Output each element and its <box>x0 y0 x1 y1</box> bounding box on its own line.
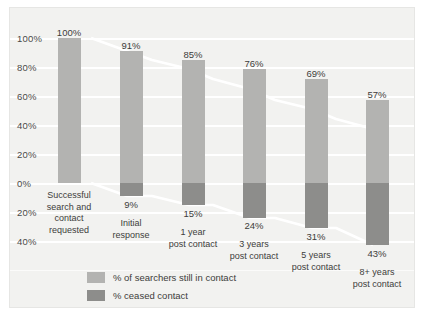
bar-value-down-3: 15% <box>170 208 216 219</box>
bar-up-5 <box>305 79 328 183</box>
category-line-5b: post contact <box>285 262 347 274</box>
category-line-2a: Initial <box>100 218 162 230</box>
category-label-1: Successful search and contact requested <box>38 190 100 236</box>
category-line-3b: post contact <box>162 239 224 251</box>
legend-item-ceased-contact: % ceased contact <box>87 290 188 301</box>
y-tick-label-80: 80% <box>17 62 61 73</box>
category-line-3a: 1 year <box>162 227 224 239</box>
category-line-2b: response <box>100 230 162 242</box>
category-label-6: 8+ years post contact <box>346 267 408 290</box>
legend-swatch-still-in-contact-icon <box>87 272 105 283</box>
legend-item-still-in-contact: % of searchers still in contact <box>87 272 236 283</box>
bar-value-down-2: 9% <box>108 199 154 210</box>
gridline-0 <box>9 183 415 185</box>
category-line-1b: search and <box>38 202 100 214</box>
bar-down-2 <box>120 183 143 196</box>
bar-value-up-6: 57% <box>354 89 400 100</box>
bar-up-4 <box>243 69 266 183</box>
bar-value-up-5: 69% <box>293 68 339 79</box>
category-line-6a: 8+ years <box>346 267 408 279</box>
legend-swatch-ceased-contact-icon <box>87 290 105 301</box>
category-label-3: 1 year post contact <box>162 227 224 250</box>
category-line-1a: Successful <box>38 190 100 202</box>
y-tick-label-down-40: 40% <box>17 236 61 247</box>
bar-down-6 <box>366 183 389 245</box>
y-tick-label-20: 20% <box>17 149 61 160</box>
category-label-2: Initial response <box>100 218 162 241</box>
bar-down-4 <box>243 183 266 218</box>
bar-value-up-1: 100% <box>46 27 92 38</box>
chart-plot-area: 100% 80% 60% 40% 20% 0% 20% 40% 100% Suc… <box>9 7 415 308</box>
category-label-5: 5 years post contact <box>285 250 347 273</box>
bar-up-1 <box>58 38 81 183</box>
bar-down-5 <box>305 183 328 228</box>
category-label-4: 3 years post contact <box>223 239 285 262</box>
legend-label-ceased-contact: % ceased contact <box>113 290 188 301</box>
bar-up-2 <box>120 51 143 183</box>
category-line-4a: 3 years <box>223 239 285 251</box>
bar-value-down-4: 24% <box>231 220 277 231</box>
category-line-4b: post contact <box>223 251 285 263</box>
bar-down-3 <box>182 183 205 205</box>
y-tick-label-40: 40% <box>17 120 61 131</box>
category-line-1c: contact <box>38 213 100 225</box>
bar-value-up-4: 76% <box>231 58 277 69</box>
bar-value-up-3: 85% <box>170 49 216 60</box>
y-tick-label-0: 0% <box>17 178 61 189</box>
legend-label-still-in-contact: % of searchers still in contact <box>113 272 236 283</box>
category-line-6b: post contact <box>346 279 408 291</box>
category-line-5a: 5 years <box>285 250 347 262</box>
y-tick-label-60: 60% <box>17 91 61 102</box>
category-line-1d: requested <box>38 225 100 237</box>
bar-up-6 <box>366 100 389 183</box>
bar-value-up-2: 91% <box>108 40 154 51</box>
bar-value-down-6: 43% <box>354 248 400 259</box>
bar-up-3 <box>182 60 205 183</box>
bar-value-down-5: 31% <box>293 231 339 242</box>
chart-screenshot: 100% 80% 60% 40% 20% 0% 20% 40% 100% Suc… <box>0 0 422 327</box>
